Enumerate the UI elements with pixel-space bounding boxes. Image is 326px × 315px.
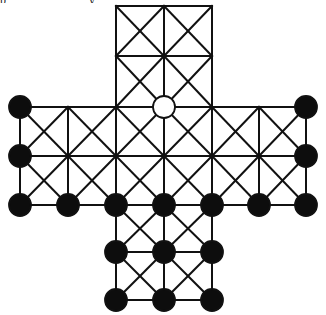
black-piece (153, 289, 175, 311)
black-piece (201, 289, 223, 311)
white-piece (153, 96, 175, 118)
black-piece (57, 194, 79, 216)
black-piece (9, 194, 31, 216)
black-piece (295, 145, 317, 167)
black-piece (295, 96, 317, 118)
black-piece (295, 194, 317, 216)
black-piece (248, 194, 270, 216)
black-piece (153, 241, 175, 263)
cross-board-diagram (0, 0, 326, 315)
black-piece (201, 194, 223, 216)
black-piece (201, 241, 223, 263)
black-piece (153, 194, 175, 216)
black-piece (9, 145, 31, 167)
black-piece (9, 96, 31, 118)
black-piece (105, 241, 127, 263)
black-piece (105, 194, 127, 216)
black-piece (105, 289, 127, 311)
